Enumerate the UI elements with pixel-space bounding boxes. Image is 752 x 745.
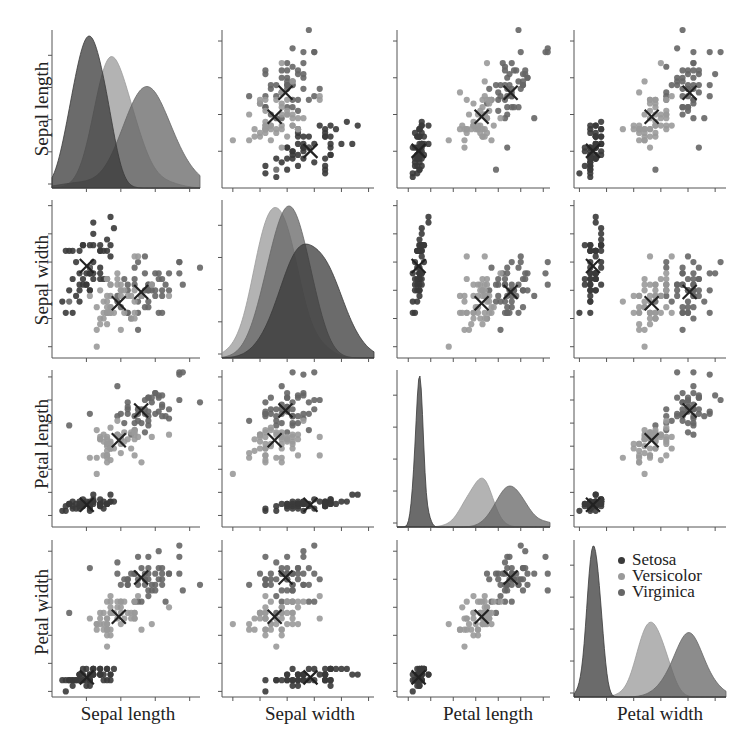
point-virginica <box>652 167 658 173</box>
point-versicolor <box>647 253 653 259</box>
point-virginica <box>273 418 279 424</box>
point-virginica <box>542 270 548 276</box>
point-setosa <box>284 671 290 677</box>
point-versicolor <box>647 429 653 435</box>
point-virginica <box>66 298 72 304</box>
point-versicolor <box>636 137 642 143</box>
point-setosa <box>97 671 103 677</box>
point-virginica <box>87 565 93 571</box>
panel-sepal-length-vs-petal-width <box>570 27 726 192</box>
point-setosa <box>593 248 599 254</box>
point-virginica <box>152 390 158 396</box>
point-virginica <box>690 315 696 321</box>
point-versicolor <box>295 115 301 121</box>
point-virginica <box>284 395 290 401</box>
point-versicolor <box>641 450 647 456</box>
point-versicolor <box>658 310 664 316</box>
point-versicolor <box>663 452 669 458</box>
point-versicolor <box>121 599 127 605</box>
point-setosa <box>90 276 96 282</box>
point-versicolor <box>647 100 653 106</box>
point-virginica <box>524 571 530 577</box>
point-setosa <box>327 122 333 128</box>
point-setosa <box>410 688 416 694</box>
point-setosa <box>295 141 301 147</box>
point-virginica <box>531 115 537 121</box>
point-virginica <box>145 304 151 310</box>
col-label-sepal-length: Sepal length <box>81 703 175 725</box>
point-versicolor <box>279 126 285 132</box>
point-versicolor <box>482 253 488 259</box>
point-virginica <box>284 565 290 571</box>
point-versicolor <box>663 304 669 310</box>
point-versicolor <box>104 452 110 458</box>
point-versicolor <box>104 627 110 633</box>
point-setosa <box>97 242 103 248</box>
point-virginica <box>509 282 515 288</box>
point-virginica <box>125 406 131 412</box>
point-virginica <box>685 298 691 304</box>
point-virginica <box>311 49 317 55</box>
point-virginica <box>197 399 203 405</box>
point-versicolor <box>486 615 492 621</box>
point-virginica <box>663 265 669 271</box>
point-setosa <box>587 298 593 304</box>
point-versicolor <box>295 436 301 442</box>
point-versicolor <box>663 126 669 132</box>
point-versicolor <box>663 282 669 288</box>
point-versicolor <box>273 130 279 136</box>
point-virginica <box>685 420 691 426</box>
point-virginica <box>306 27 312 33</box>
point-virginica <box>690 276 696 282</box>
point-setosa <box>300 133 306 139</box>
point-versicolor <box>251 627 257 633</box>
point-versicolor <box>636 293 642 299</box>
point-virginica <box>138 599 144 605</box>
point-versicolor <box>461 643 467 649</box>
point-virginica <box>273 593 279 599</box>
point-virginica <box>295 420 301 426</box>
point-virginica <box>159 293 165 299</box>
point-virginica <box>176 571 182 577</box>
point-versicolor <box>246 111 252 117</box>
point-setosa <box>355 671 361 677</box>
point-virginica <box>669 298 675 304</box>
point-virginica <box>542 554 548 560</box>
point-virginica <box>520 82 526 88</box>
point-versicolor <box>289 78 295 84</box>
point-setosa <box>107 671 113 677</box>
point-setosa <box>295 683 301 689</box>
point-versicolor <box>647 455 653 461</box>
point-setosa <box>587 242 593 248</box>
point-virginica <box>696 144 702 150</box>
point-virginica <box>145 298 151 304</box>
panel-petal-length-vs-petal-length <box>393 370 550 531</box>
point-virginica <box>279 587 285 593</box>
point-versicolor <box>289 615 295 621</box>
point-virginica <box>176 372 182 378</box>
point-setosa <box>344 499 350 505</box>
point-setosa <box>322 170 328 176</box>
point-setosa <box>576 508 582 514</box>
point-versicolor <box>166 432 172 438</box>
point-versicolor <box>128 315 134 321</box>
point-versicolor <box>466 111 472 117</box>
point-versicolor <box>97 321 103 327</box>
point-virginica <box>502 67 508 73</box>
point-virginica <box>515 310 521 316</box>
point-setosa <box>306 133 312 139</box>
point-versicolor <box>647 445 653 451</box>
point-virginica <box>509 104 515 110</box>
point-virginica <box>663 293 669 299</box>
point-setosa <box>262 677 268 683</box>
point-versicolor <box>486 298 492 304</box>
panel-sepal-width-vs-sepal-width <box>218 200 374 362</box>
point-setosa <box>104 236 110 242</box>
point-virginica <box>273 167 279 173</box>
point-virginica <box>152 293 158 299</box>
point-virginica <box>262 576 268 582</box>
point-virginica <box>138 420 144 426</box>
point-virginica <box>311 369 317 375</box>
point-setosa <box>414 248 420 254</box>
point-versicolor <box>641 287 647 293</box>
